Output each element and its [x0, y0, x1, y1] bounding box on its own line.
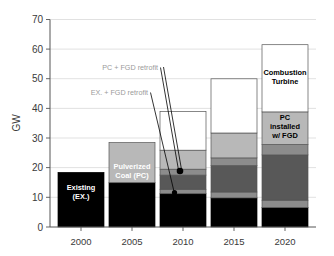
y-tick-label-60: 60	[32, 44, 44, 55]
stacked-bar-chart: 70 60 50 40 30 20 10 0 GW 2000 2005 2010…	[0, 0, 334, 256]
bar-segment-pulverized-coal-2015	[211, 133, 257, 158]
bar-segment-ex-fgd-retrofit-2020	[262, 200, 308, 207]
x-tick-label-2020: 2020	[274, 236, 295, 247]
bar-segment-ex-fgd-retrofit-2010	[160, 189, 206, 193]
marker-dot-pc-fgd	[177, 168, 184, 175]
y-tick-label-0: 0	[37, 222, 43, 233]
y-tick-marks	[46, 20, 50, 228]
bar-label-existing-line1: Existing	[67, 183, 96, 192]
y-tick-label-20: 20	[32, 162, 44, 173]
y-axis-title: GW	[11, 114, 22, 132]
bar-group-2005[interactable]	[109, 143, 155, 227]
bar-label-pulverized-line1: Pulverized	[114, 162, 151, 171]
callout-label-ex-fgd-retrofit: EX. + FGD retrofit	[91, 88, 148, 97]
bar-segment-pc-with-fgd-2020	[262, 155, 308, 200]
chart-container: 70 60 50 40 30 20 10 0 GW 2000 2005 2010…	[0, 0, 334, 256]
bar-label-pulverized-line2: Coal (PC)	[115, 171, 149, 180]
bar-label-pc-fgd-line3: w/ FGD	[271, 131, 298, 140]
bar-segment-combustion-turbine-2010	[160, 111, 206, 150]
y-tick-label-70: 70	[32, 14, 44, 25]
marker-dot-ex-fgd	[172, 190, 177, 195]
bar-label-combustion-line1: Combustion	[263, 68, 307, 77]
bar-segment-existing-2010	[160, 194, 206, 227]
bar-segment-existing-2020	[262, 208, 308, 227]
x-tick-label-2005: 2005	[121, 236, 142, 247]
x-tick-label-2010: 2010	[172, 236, 193, 247]
bar-segment-pc-with-fgd-2010	[160, 175, 206, 189]
bar-segment-pc-with-fgd-2015	[211, 166, 257, 192]
x-tick-label-2015: 2015	[223, 236, 244, 247]
y-tick-label-50: 50	[32, 73, 44, 84]
bar-segment-pc-fgd-retrofit-2020	[262, 145, 308, 155]
bar-label-existing-line2: (EX.)	[73, 192, 90, 201]
bar-segment-pc-fgd-retrofit-2015	[211, 158, 257, 166]
callout-label-pc-fgd-retrofit: PC + FGD retrofit	[102, 63, 158, 72]
bar-segment-pulverized-coal-2010	[160, 150, 206, 169]
bar-label-combustion-line2: Turbine	[272, 77, 299, 86]
bar-label-pc-fgd-line2: installed	[270, 122, 300, 131]
bar-segment-existing-2005	[109, 183, 155, 227]
bar-group-2015[interactable]	[211, 79, 257, 227]
bar-group-2010[interactable]	[160, 111, 206, 226]
y-tick-label-30: 30	[32, 133, 44, 144]
bar-segment-combustion-turbine-2015	[211, 79, 257, 133]
y-tick-label-10: 10	[32, 192, 44, 203]
bar-segment-existing-2015	[211, 198, 257, 227]
x-tick-marks	[81, 227, 285, 231]
bar-label-pc-fgd-line1: PC	[280, 113, 291, 122]
x-tick-label-2000: 2000	[70, 236, 91, 247]
y-tick-label-40: 40	[32, 103, 44, 114]
bar-segment-ex-fgd-retrofit-2015	[211, 192, 257, 198]
